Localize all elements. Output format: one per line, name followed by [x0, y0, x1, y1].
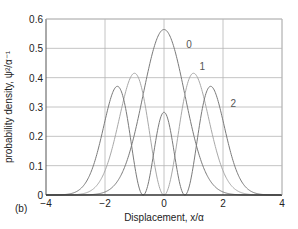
x-tick-label: 0 — [161, 198, 167, 209]
panel-label: (b) — [15, 203, 27, 214]
y-tick-label: 0.6 — [29, 14, 43, 25]
x-tick-label: −4 — [40, 198, 52, 209]
y-tick-label: 0.3 — [29, 102, 43, 113]
x-tick-label: 2 — [220, 198, 226, 209]
probability-density-chart: 00.10.20.30.40.50.6 −4−2024 012 Displace… — [0, 0, 298, 229]
curve-label-2: 2 — [230, 98, 236, 109]
curve-labels: 012 — [186, 39, 236, 109]
x-axis-label: Displacement, x/α — [124, 212, 204, 223]
grid-lines — [46, 19, 282, 195]
y-tick-label: 0.1 — [29, 161, 43, 172]
y-tick-label: 0.4 — [29, 73, 43, 84]
y-tick-labels: 00.10.20.30.40.50.6 — [29, 14, 43, 201]
x-tick-label: 4 — [279, 198, 285, 209]
curve-label-1: 1 — [199, 61, 205, 72]
curve-label-0: 0 — [186, 39, 192, 50]
y-tick-label: 0.2 — [29, 131, 43, 142]
y-tick-label: 0.5 — [29, 43, 43, 54]
x-tick-label: −2 — [99, 198, 111, 209]
y-axis-label: probability density, ψ²/α⁻¹ — [3, 50, 14, 163]
x-tick-labels: −4−2024 — [40, 198, 285, 209]
